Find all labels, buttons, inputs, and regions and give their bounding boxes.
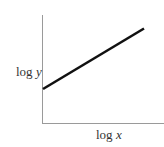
data-line (43, 29, 144, 90)
y-axis-label: log y (16, 64, 42, 80)
x-axis-label: log x (96, 127, 122, 143)
